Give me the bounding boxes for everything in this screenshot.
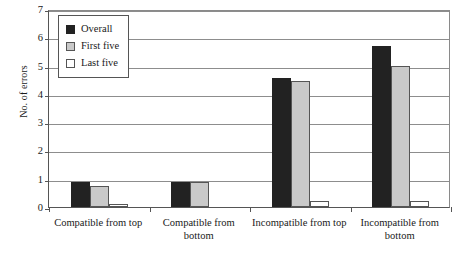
y-tick-mark <box>45 11 49 12</box>
y-tick-label: 1 <box>27 175 43 186</box>
y-tick-mark <box>45 39 49 40</box>
legend-item: First five <box>66 38 119 55</box>
x-tick-mark <box>451 207 452 212</box>
bar-chart-figure: No. of errors 01234567 Compatible from t… <box>0 0 458 262</box>
legend-item-label: Overall <box>81 24 113 35</box>
legend-item: Last five <box>66 55 119 72</box>
x-axis-category-label: Incompatible from top <box>247 216 351 229</box>
legend: OverallFirst fiveLast five <box>58 15 129 78</box>
x-tick-mark <box>250 207 251 212</box>
bar <box>71 182 90 207</box>
y-tick-mark <box>45 124 49 125</box>
x-axis-category-label: Compatible from bottom <box>147 216 251 242</box>
bar <box>410 201 429 207</box>
legend-item-label: First five <box>81 41 119 52</box>
y-tick-label: 2 <box>27 146 43 157</box>
y-tick-label: 6 <box>27 33 43 44</box>
y-tick-label: 7 <box>27 5 43 16</box>
legend-swatch-icon <box>66 25 75 34</box>
bar <box>391 66 410 207</box>
y-tick-mark <box>45 68 49 69</box>
bar <box>310 201 329 207</box>
bar-group <box>372 11 429 207</box>
x-tick-mark <box>150 207 151 212</box>
legend-item: Overall <box>66 21 119 38</box>
bar <box>291 81 310 207</box>
x-tick-mark <box>49 207 50 212</box>
y-tick-label: 0 <box>27 203 43 214</box>
y-tick-label: 4 <box>27 90 43 101</box>
bar <box>171 182 190 207</box>
bar <box>372 46 391 207</box>
legend-swatch-icon <box>66 42 75 51</box>
x-tick-mark <box>351 207 352 212</box>
bar <box>90 186 109 207</box>
y-tick-mark <box>45 181 49 182</box>
legend-item-label: Last five <box>81 58 118 69</box>
y-tick-mark <box>45 152 49 153</box>
bar <box>109 204 128 207</box>
y-tick-label: 3 <box>27 118 43 129</box>
x-axis-category-label: Compatible from top <box>46 216 150 229</box>
x-axis-category-label: Incompatible from bottom <box>348 216 452 242</box>
bar <box>272 78 291 207</box>
y-tick-label: 5 <box>27 62 43 73</box>
y-tick-mark <box>45 96 49 97</box>
legend-swatch-icon <box>66 59 75 68</box>
bar <box>190 182 209 207</box>
bar-group <box>272 11 329 207</box>
bar-group <box>171 11 228 207</box>
